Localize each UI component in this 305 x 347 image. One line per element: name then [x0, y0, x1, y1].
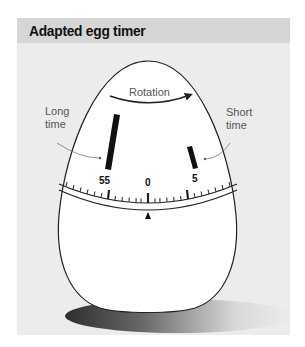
short-time-label: Short time — [226, 106, 252, 132]
dial-number-5: 5 — [192, 173, 198, 184]
rotation-label: Rotation — [129, 86, 170, 99]
egg-timer-diagram — [0, 0, 305, 347]
long-time-label: Long time — [45, 105, 69, 131]
dial-number-55: 55 — [99, 175, 110, 186]
dial-number-0: 0 — [145, 177, 151, 188]
